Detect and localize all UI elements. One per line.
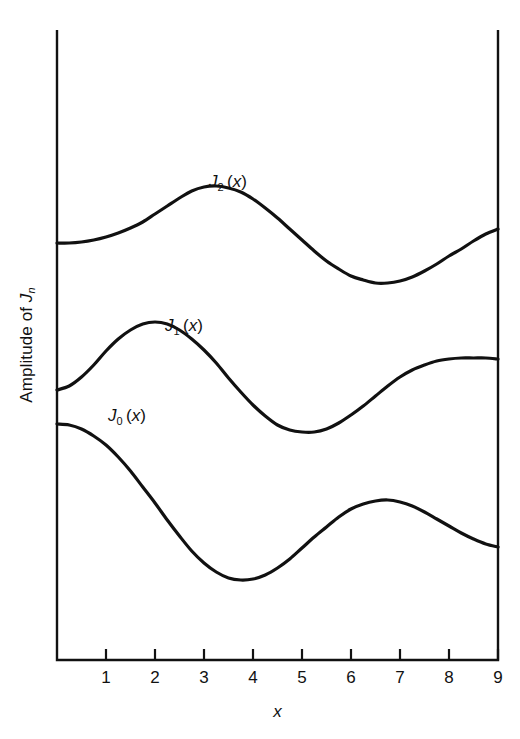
curve-label-2: J0 (x) <box>108 406 146 426</box>
x-tick-label: 9 <box>485 668 511 688</box>
x-tick-label: 7 <box>387 668 413 688</box>
x-tick-label: 6 <box>338 668 364 688</box>
curve-label-0: J2 (x) <box>209 172 247 192</box>
axis-frame <box>57 30 498 660</box>
x-axis-ticks <box>106 649 498 660</box>
x-axis-label: x <box>0 702 520 722</box>
x-tick-label: 8 <box>436 668 462 688</box>
plot-canvas <box>0 0 520 739</box>
axis-frame-path <box>57 30 498 660</box>
y-axis-label-text: Amplitude of Jn <box>17 287 37 402</box>
curve-label-1: J1 (x) <box>165 316 203 336</box>
curve-j2x <box>57 186 498 283</box>
bessel-function-chart: Amplitude of Jn 123456789 J2 (x)J1 (x)J0… <box>0 0 520 739</box>
y-axis-label: Amplitude of Jn <box>2 30 51 660</box>
x-tick-label: 5 <box>289 668 315 688</box>
curve-group <box>57 186 498 580</box>
x-tick-label: 2 <box>142 668 168 688</box>
curve-j0x <box>57 424 498 580</box>
x-tick-label: 1 <box>93 668 119 688</box>
x-axis-label-text: x <box>273 702 282 721</box>
x-tick-label: 4 <box>240 668 266 688</box>
x-tick-label: 3 <box>191 668 217 688</box>
